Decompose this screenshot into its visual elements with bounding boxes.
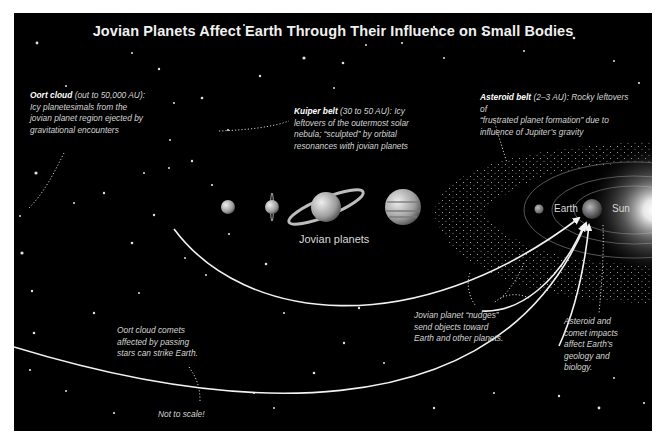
mars-icon xyxy=(535,205,544,214)
jupiter-icon xyxy=(385,189,421,225)
asteroid-belt-annotation: Asteroid belt (2–3 AU): Rocky leftovers … xyxy=(480,92,635,138)
oort-cloud-leader xyxy=(29,153,64,208)
oort-comets-annotation: Oort cloud comets affected by passing st… xyxy=(117,325,198,360)
oort-cloud-annotation: Oort cloud (out to 50,000 AU): Icy plane… xyxy=(30,90,145,136)
jovian-planets-label: Jovian planets xyxy=(299,233,369,245)
kuiper-belt-leader xyxy=(219,121,289,131)
sun-label: Sun xyxy=(612,203,630,214)
kuiper-belt-heading: Kuiper belt xyxy=(294,106,338,116)
jovian-planets xyxy=(221,184,602,231)
oort-comets-leader xyxy=(189,367,200,401)
neptune-icon xyxy=(221,200,235,214)
saturn-icon xyxy=(311,192,341,222)
diagram-panel: Jovian Planets Affect Earth Through Thei… xyxy=(14,13,652,431)
earth-label: Earth xyxy=(554,203,578,214)
jovian-nudges-annotation: Jovian planet “nudges” send objects towa… xyxy=(414,310,503,345)
impacts-annotation: Asteroid and comet impacts affect Earth’… xyxy=(564,316,618,374)
uranus-icon xyxy=(265,200,279,214)
not-to-scale-note: Not to scale! xyxy=(158,409,205,421)
oort-cloud-heading: Oort cloud xyxy=(30,90,72,100)
diagram-title: Jovian Planets Affect Earth Through Thei… xyxy=(14,23,652,39)
kuiper-belt-annotation: Kuiper belt (30 to 50 AU): Icy leftovers… xyxy=(294,106,409,152)
solar-system-illustration xyxy=(14,13,652,431)
earth-icon xyxy=(582,199,602,219)
asteroid-belt-heading: Asteroid belt xyxy=(480,92,531,102)
